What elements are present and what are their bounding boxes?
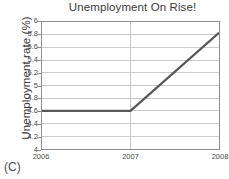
series-line-unemployment-rate	[42, 33, 219, 111]
figure-caption: (C)	[4, 160, 21, 174]
y-axis-tick-label: 4.4	[16, 120, 38, 128]
plot-area	[41, 21, 220, 150]
y-axis-tick-label: 4.6	[16, 107, 38, 115]
x-axis-tick-label: 2007	[111, 152, 151, 161]
x-axis-tick-label: 2006	[21, 152, 61, 161]
x-axis-tick-label: 2008	[200, 152, 229, 161]
data-series-line	[42, 22, 219, 149]
y-axis-tick-label: 5.8	[16, 30, 38, 38]
y-axis-tick-label: 4.8	[16, 94, 38, 102]
y-axis-tick-label: 4.2	[16, 133, 38, 141]
chart-figure: Unemployment On Rise! Unemployment rate …	[0, 0, 229, 179]
y-axis-tick-label: 5	[16, 82, 38, 90]
y-axis-tick-labels: 44.24.44.64.855.25.45.65.86	[14, 21, 38, 150]
y-axis-tick-label: 5.2	[16, 69, 38, 77]
y-axis-tick-label: 5.6	[16, 43, 38, 51]
y-axis-tick-label: 6	[16, 17, 38, 25]
y-axis-tick-mark	[37, 150, 41, 151]
y-axis-tick-label: 5.4	[16, 56, 38, 64]
x-axis-tick-labels: 200620072008	[41, 152, 220, 164]
chart-title: Unemployment On Rise!	[40, 0, 225, 15]
